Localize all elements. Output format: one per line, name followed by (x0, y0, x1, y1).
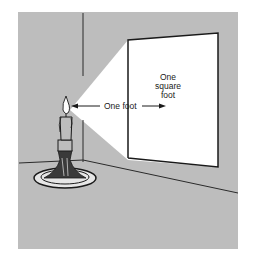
distance-label: One foot (104, 101, 137, 111)
candle-body (60, 117, 72, 140)
candle-illumination-diagram: One foot One square foot (0, 0, 261, 268)
area-label-line3: foot (161, 90, 176, 100)
candle-cup (58, 140, 72, 151)
